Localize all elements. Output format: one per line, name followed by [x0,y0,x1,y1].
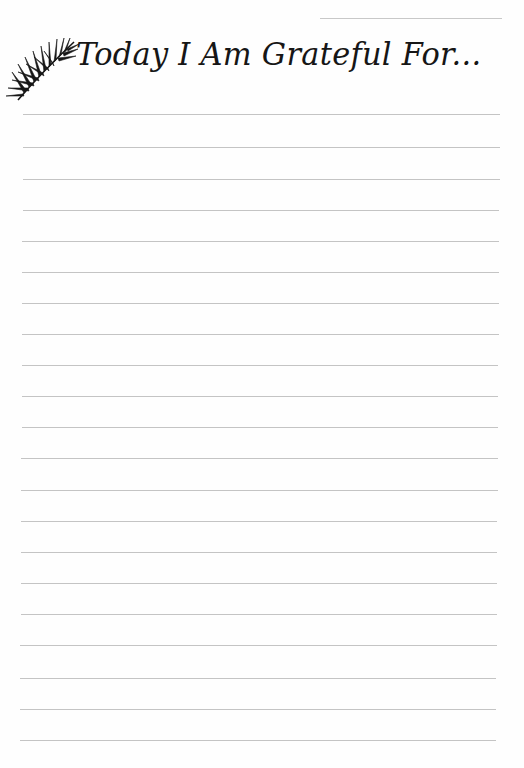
writing-line[interactable] [21,490,498,491]
writing-line[interactable] [21,583,497,584]
writing-line[interactable] [21,614,497,615]
writing-line[interactable] [22,396,498,397]
writing-line[interactable] [23,179,500,180]
writing-line[interactable] [21,521,497,522]
writing-line[interactable] [21,458,498,459]
writing-line[interactable] [23,147,500,148]
writing-line[interactable] [22,303,499,304]
writing-line[interactable] [22,427,498,428]
writing-line[interactable] [22,241,499,242]
writing-line[interactable] [22,365,498,366]
writing-line[interactable] [20,678,496,679]
writing-line[interactable] [22,334,499,335]
writing-line[interactable] [23,210,499,211]
writing-line[interactable] [20,740,496,741]
journal-page: Today I Am Grateful For... [0,0,524,768]
writing-lines [0,0,524,768]
writing-line[interactable] [20,709,496,710]
writing-line[interactable] [21,552,497,553]
writing-line[interactable] [22,272,499,273]
writing-line[interactable] [23,114,500,115]
writing-line[interactable] [20,645,497,646]
